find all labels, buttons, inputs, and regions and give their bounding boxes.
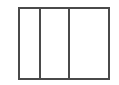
panel-middle (40, 8, 69, 79)
figure-canvas (0, 0, 119, 85)
panel-left (19, 8, 40, 79)
three-panel-rectangle-figure (0, 0, 119, 85)
panel-right (69, 8, 109, 79)
